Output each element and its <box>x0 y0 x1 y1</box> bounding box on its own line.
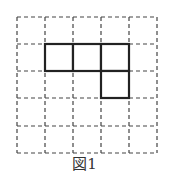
shape-cell <box>73 44 101 71</box>
figure-caption: 図1 <box>0 155 169 173</box>
shape-cell <box>45 44 73 71</box>
shape-cell <box>101 71 129 98</box>
grid-figure: 図1 <box>0 0 169 183</box>
shape-cell <box>101 44 129 71</box>
bold-shape <box>45 44 129 98</box>
grid-lines <box>17 17 157 153</box>
